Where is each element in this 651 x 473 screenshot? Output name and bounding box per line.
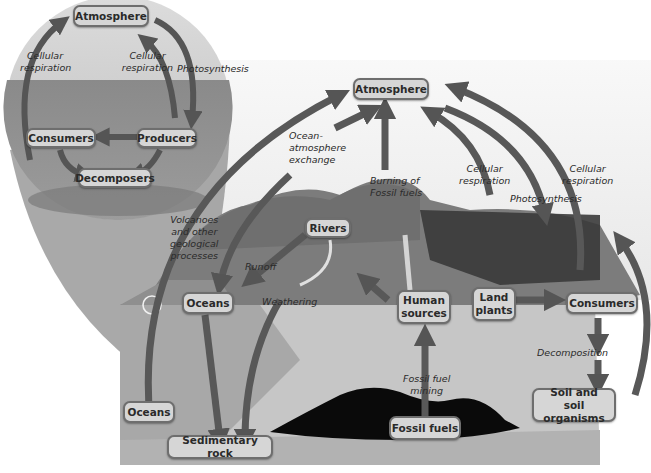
- volcanoes-label: Volcanoes and other geological processes: [170, 214, 219, 262]
- human-sources-line2: sources: [401, 307, 447, 320]
- cellular-respiration-right-label: Cellular respiration: [562, 163, 613, 187]
- runoff-label: Runoff: [245, 261, 276, 273]
- inset-decomposers-node: Decomposers: [78, 168, 152, 188]
- soil-line2: soil organisms: [534, 399, 614, 425]
- ocean-exchange-label: Ocean- atmosphere exchange: [289, 130, 346, 166]
- soil-line1: Soil and: [550, 386, 598, 399]
- atmosphere-node: Atmosphere: [353, 78, 429, 100]
- oceans-surface-node: Oceans: [182, 292, 234, 314]
- soil-node: Soil and soil organisms: [532, 388, 616, 422]
- inset-producers-node: Producers: [137, 128, 197, 148]
- fossil-fuel-mining-label: Fossil fuel mining: [403, 373, 450, 397]
- consumers-node: Consumers: [566, 292, 638, 314]
- sedimentary-rock-node: Sedimentary rock: [167, 435, 273, 459]
- carbon-cycle-diagram: Atmosphere Consumers Producers Decompose…: [0, 0, 651, 473]
- weathering-label: Weathering: [262, 296, 317, 308]
- inset-photosynthesis-label: Photosynthesis: [177, 63, 249, 75]
- inset-consumers-node: Consumers: [26, 128, 96, 148]
- land-plants-line2: plants: [476, 304, 513, 317]
- rivers-node: Rivers: [305, 218, 351, 238]
- inset-atmosphere-node: Atmosphere: [73, 5, 149, 27]
- land-plants-line1: Land: [480, 291, 509, 304]
- burning-fossil-fuels-label: Burning of Fossil fuels: [370, 175, 422, 199]
- human-sources-line1: Human: [403, 294, 445, 307]
- inset-cellular-respiration-left-label: Cellular respiration: [20, 50, 70, 74]
- human-sources-node: Human sources: [397, 290, 451, 324]
- fossil-fuels-node: Fossil fuels: [389, 416, 461, 440]
- oceans-deep-node: Oceans: [123, 401, 175, 423]
- decomposition-label: Decomposition: [537, 347, 608, 359]
- inset-cellular-respiration-right-label: Cellular respiration: [120, 50, 175, 74]
- photosynthesis-label: Photosynthesis: [510, 193, 582, 205]
- land-plants-node: Land plants: [472, 287, 516, 321]
- cellular-respiration-mid-label: Cellular respiration: [459, 163, 510, 187]
